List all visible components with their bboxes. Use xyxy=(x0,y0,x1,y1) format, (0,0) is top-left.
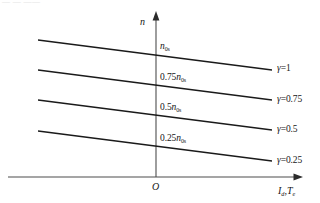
gamma-value: 0.5 xyxy=(286,124,298,134)
ytick-subscript: 0s xyxy=(181,77,186,83)
ytick-label-025n0s: 0.25n0s xyxy=(160,134,186,144)
ytick-label-075n0s: 0.75n0s xyxy=(160,73,186,83)
characteristic-line-gamma-1 xyxy=(38,40,272,70)
curve-label-gamma-025: γ=0.25 xyxy=(277,156,302,166)
y-axis-arrowhead-icon xyxy=(153,11,160,21)
x-axis-label: Id,Te xyxy=(278,186,295,196)
x-axis-label-current-sub: d xyxy=(281,190,284,197)
x-axis-arrowhead-icon xyxy=(294,174,304,181)
ytick-subscript: 0s xyxy=(165,46,170,52)
gamma-value: 0.75 xyxy=(286,94,302,104)
ytick-symbol: n xyxy=(160,41,165,51)
gamma-value: 1 xyxy=(286,63,291,73)
ytick-label-05n0s: 0.5n0s xyxy=(160,103,181,113)
y-axis-label: n xyxy=(140,17,145,27)
origin-label: O xyxy=(152,182,159,192)
curve-label-gamma-075: γ=0.75 xyxy=(277,95,302,105)
ytick-prefix: 0.25 xyxy=(160,133,176,143)
characteristic-line-gamma-075 xyxy=(38,70,272,100)
gamma-value: 0.25 xyxy=(286,155,302,165)
ytick-subscript: 0s xyxy=(176,107,181,113)
curve-label-gamma-05: γ=0.5 xyxy=(277,125,298,135)
ytick-label-n0s: n0s xyxy=(160,42,170,52)
speed-torque-characteristic-figure: — — —— n Id,Te O n0s 0.75n0s 0.5n0s 0.25… xyxy=(0,0,320,203)
characteristic-line-gamma-05 xyxy=(38,100,272,130)
ytick-prefix: 0.75 xyxy=(160,72,176,82)
curve-label-gamma-1: γ=1 xyxy=(277,64,291,74)
ytick-subscript: 0s xyxy=(181,138,186,144)
characteristic-line-gamma-025 xyxy=(38,131,272,161)
ytick-prefix: 0.5 xyxy=(160,102,172,112)
x-axis-label-torque-sub: e xyxy=(293,190,296,197)
x-axis-label-torque: T xyxy=(287,185,293,196)
